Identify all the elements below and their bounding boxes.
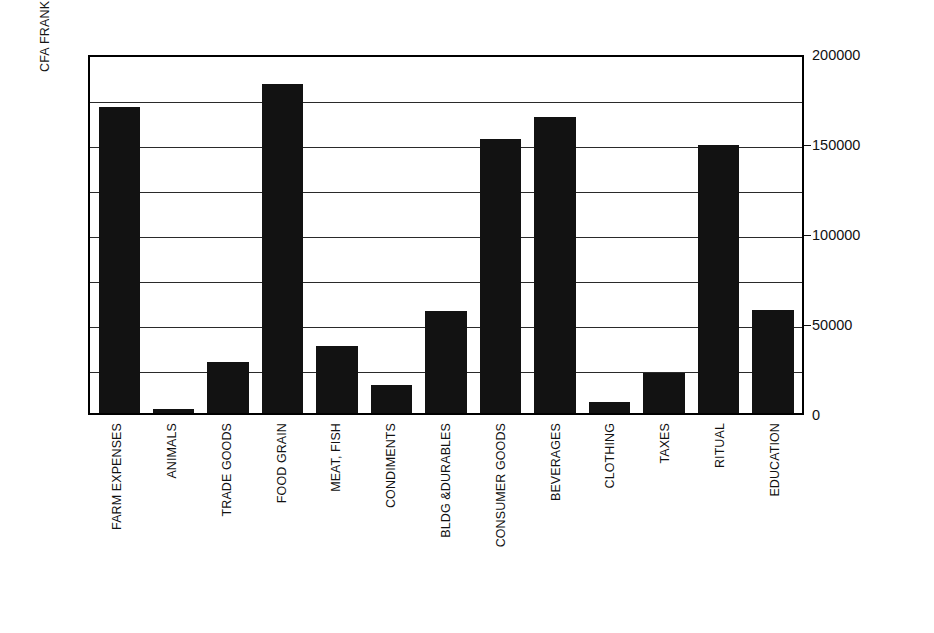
bar-slot <box>419 57 473 413</box>
bar-slot <box>691 57 745 413</box>
x-axis-category-label: ANIMALS <box>165 423 179 479</box>
x-axis-category-label: TAXES <box>658 423 672 464</box>
bar[interactable] <box>371 385 412 413</box>
y-tick-label: 200000 <box>812 47 860 63</box>
x-label-slot: BEVERAGES <box>528 417 583 617</box>
x-axis-category-label: EDUCATION <box>768 423 782 497</box>
bar-chart-figure: CFA FRANKS 050000100000150000200000 FARM… <box>0 0 934 633</box>
bar[interactable] <box>480 139 521 413</box>
x-label-slot: EDUCATION <box>747 417 802 617</box>
x-label-slot: TRADE GOODS <box>200 417 255 617</box>
y-axis-title: CFA FRANKS <box>38 0 58 72</box>
x-label-slot: FARM EXPENSES <box>90 417 145 617</box>
y-axis-tick-labels: 050000100000150000200000 <box>812 55 922 415</box>
x-label-slot: CLOTHING <box>583 417 638 617</box>
bar[interactable] <box>425 311 466 413</box>
x-axis-category-label: FOOD GRAIN <box>275 423 289 503</box>
x-label-slot: FOOD GRAIN <box>254 417 309 617</box>
plot-area <box>88 55 804 415</box>
y-tick-label: 100000 <box>812 227 860 243</box>
bar[interactable] <box>262 84 303 413</box>
bar-slot <box>310 57 364 413</box>
bar[interactable] <box>99 107 140 413</box>
bar[interactable] <box>643 373 684 413</box>
bar-slot <box>201 57 255 413</box>
y-tick-mark <box>804 235 811 236</box>
bar[interactable] <box>207 362 248 413</box>
x-label-slot: ANIMALS <box>145 417 200 617</box>
x-label-slot: CONSUMER GOODS <box>473 417 528 617</box>
x-axis-category-labels: FARM EXPENSESANIMALSTRADE GOODSFOOD GRAI… <box>88 417 804 617</box>
bar-slot <box>255 57 309 413</box>
bar[interactable] <box>698 145 739 413</box>
bar-slot <box>746 57 800 413</box>
bar[interactable] <box>752 310 793 414</box>
x-axis-category-label: TRADE GOODS <box>220 423 234 516</box>
x-axis-category-label: CLOTHING <box>603 423 617 488</box>
x-axis-category-label: RITUAL <box>713 423 727 468</box>
x-label-slot: BLDG &DURABLES <box>419 417 474 617</box>
x-axis-category-label: BEVERAGES <box>549 423 563 501</box>
y-tick-label: 0 <box>812 407 820 423</box>
x-axis-category-label: BLDG &DURABLES <box>439 423 453 538</box>
bar[interactable] <box>589 402 630 413</box>
x-axis-category-label: MEAT, FISH <box>329 423 343 492</box>
bar-slot <box>582 57 636 413</box>
x-axis-category-label: FARM EXPENSES <box>110 423 124 530</box>
y-tick-mark <box>804 145 811 146</box>
x-label-slot: CONDIMENTS <box>364 417 419 617</box>
x-label-slot: TAXES <box>638 417 693 617</box>
bar-slot <box>146 57 200 413</box>
y-tick-label: 150000 <box>812 137 860 153</box>
x-axis-category-label: CONSUMER GOODS <box>494 423 508 547</box>
bar[interactable] <box>316 346 357 413</box>
bar-slot <box>528 57 582 413</box>
bar-slot <box>92 57 146 413</box>
bar-slot <box>473 57 527 413</box>
x-label-slot: RITUAL <box>692 417 747 617</box>
bar-slot <box>364 57 418 413</box>
bar[interactable] <box>153 409 194 414</box>
y-tick-label: 50000 <box>812 317 852 333</box>
x-axis-category-label: CONDIMENTS <box>384 423 398 508</box>
y-tick-mark <box>804 325 811 326</box>
x-label-slot: MEAT, FISH <box>309 417 364 617</box>
bar[interactable] <box>534 117 575 413</box>
bar-slot <box>637 57 691 413</box>
bar-series <box>90 57 802 413</box>
